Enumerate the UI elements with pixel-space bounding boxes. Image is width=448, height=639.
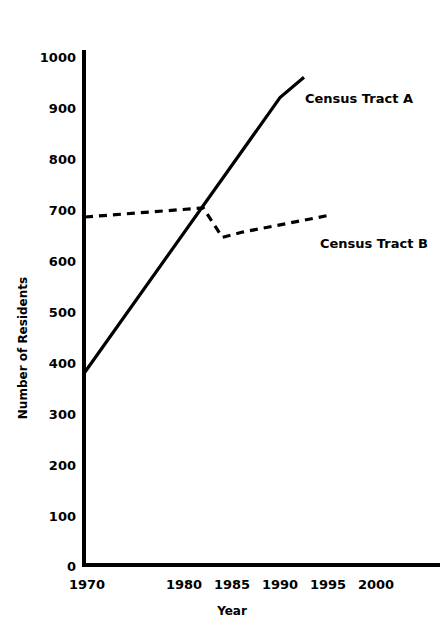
x-tick-label-2000: 2000 [358,577,394,592]
y-tick-label-800: 800 [49,152,76,167]
x-tick-label-1970: 1970 [69,577,105,592]
x-tick-label-1995: 1995 [310,577,346,592]
x-axis-title: Year [216,604,247,618]
y-tick-label-600: 600 [49,254,76,269]
chart-svg: 1000 900 800 700 600 500 400 300 200 100… [0,0,448,639]
x-tick-label-1985: 1985 [214,577,250,592]
x-tick-label-1980: 1980 [166,577,202,592]
series-label-census-tract-b: Census Tract B [320,236,428,251]
y-tick-label-300: 300 [49,407,76,422]
series-label-census-tract-a: Census Tract A [305,91,413,106]
y-tick-label-900: 900 [49,101,76,116]
y-tick-label-200: 200 [49,458,76,473]
y-tick-label-1000: 1000 [40,50,76,65]
line-chart-figure: 1000 900 800 700 600 500 400 300 200 100… [0,0,448,639]
y-tick-label-700: 700 [49,203,76,218]
x-tick-label-1990: 1990 [262,577,298,592]
y-tick-label-100: 100 [49,509,76,524]
y-axis-title: Number of Residents [16,277,30,419]
y-tick-label-500: 500 [49,305,76,320]
y-tick-label-0: 0 [67,559,76,574]
y-tick-label-400: 400 [49,356,76,371]
